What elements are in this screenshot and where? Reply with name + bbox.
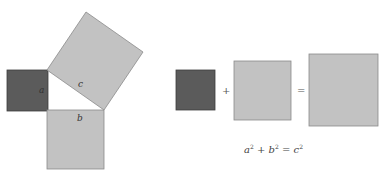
right-figure: + = a2 + b2 = c2 xyxy=(176,54,378,155)
square-c xyxy=(47,12,143,110)
square-a-right xyxy=(176,70,215,110)
label-a: a xyxy=(39,85,44,95)
label-b: b xyxy=(77,113,83,123)
equals-sign: = xyxy=(297,85,305,96)
square-b xyxy=(47,110,104,169)
plus-sign: + xyxy=(222,85,230,96)
square-c-right xyxy=(309,54,378,126)
left-figure: a c b xyxy=(7,12,143,169)
eq-plus: + xyxy=(254,144,269,155)
equation: a2 + b2 = c2 xyxy=(244,143,303,155)
eq-c-exp: 2 xyxy=(299,143,303,150)
label-c: c xyxy=(78,79,83,89)
square-b-right xyxy=(234,61,291,120)
pythagorean-diagram: a c b + = a2 + b2 = c2 xyxy=(0,0,382,175)
eq-equals: = xyxy=(279,144,294,155)
